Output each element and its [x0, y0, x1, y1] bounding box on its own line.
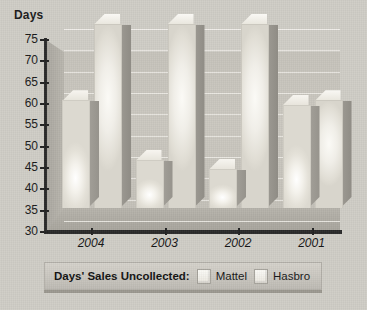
- y-axis-tick-label: 75: [12, 32, 38, 46]
- x-axis-tick: [312, 228, 314, 235]
- y-axis-tick-label: 30: [12, 224, 38, 238]
- x-axis-tick-label: 2003: [135, 236, 195, 250]
- bar-mattel-2004: [62, 101, 88, 208]
- legend-swatch-hasbro: [254, 269, 268, 284]
- y-axis-line: [44, 38, 47, 234]
- legend-label-hasbro: Hasbro: [273, 270, 310, 282]
- plot-area: [46, 40, 340, 232]
- x-axis-tick-label: 2001: [282, 236, 342, 250]
- y-axis-tick: [40, 210, 49, 212]
- chart-legend: Days' Sales Uncollected: Mattel Hasbro: [44, 262, 322, 290]
- y-axis-tick: [40, 82, 49, 84]
- x-axis-line: [44, 230, 342, 234]
- bar-front-face: [209, 169, 237, 208]
- x-axis-tick: [91, 228, 93, 235]
- x-axis-tick-label: 2004: [61, 236, 121, 250]
- bar-front-face: [136, 160, 164, 208]
- y-axis-tick-label: 35: [12, 203, 38, 217]
- y-axis-tick: [40, 60, 49, 62]
- x-axis-tick-label: 2002: [208, 236, 268, 250]
- x-axis-tick: [165, 228, 167, 235]
- y-axis-tick-label: 50: [12, 139, 38, 153]
- legend-swatch-mattel: [197, 269, 211, 284]
- chart-container: Days 30354045505560657075 20042003200220…: [0, 0, 367, 310]
- y-axis-tick: [40, 146, 49, 148]
- y-axis-tick: [40, 188, 49, 190]
- y-axis-tick: [40, 103, 49, 105]
- bar-mattel-2002: [209, 170, 235, 208]
- y-axis-tick-label: 40: [12, 181, 38, 195]
- legend-item-mattel: Mattel: [197, 269, 247, 284]
- y-axis-tick-label: 70: [12, 53, 38, 67]
- bar-mattel-2001: [283, 106, 309, 208]
- y-axis-tick-label: 45: [12, 160, 38, 174]
- gridline: [64, 221, 340, 222]
- bar-mattel-2003: [136, 161, 162, 208]
- y-axis-tick-label: 65: [12, 75, 38, 89]
- y-axis-labels: 30354045505560657075: [8, 0, 38, 310]
- y-axis-tick: [40, 39, 49, 41]
- bar-front-face: [62, 100, 90, 208]
- y-axis-tick: [40, 231, 49, 233]
- y-axis-tick-label: 55: [12, 117, 38, 131]
- bar-front-face: [283, 105, 311, 208]
- legend-title: Days' Sales Uncollected:: [54, 270, 190, 282]
- y-axis-tick: [40, 124, 49, 126]
- legend-label-mattel: Mattel: [216, 270, 247, 282]
- y-axis-tick-label: 60: [12, 96, 38, 110]
- legend-item-hasbro: Hasbro: [254, 269, 310, 284]
- y-axis-tick: [40, 167, 49, 169]
- x-axis-tick: [238, 228, 240, 235]
